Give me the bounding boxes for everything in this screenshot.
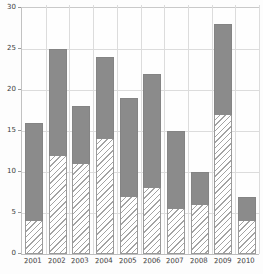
x-tick-label-2005: 2005 <box>116 257 140 267</box>
y-tick-label-10: 10 <box>0 167 16 175</box>
x-tick-label-2003: 2003 <box>68 257 92 267</box>
y-tick-mark-25 <box>18 48 21 49</box>
x-tick-label-2008: 2008 <box>187 257 211 267</box>
bar-2004-solid-segment <box>96 57 114 139</box>
bar-2003 <box>72 106 90 254</box>
x-tick-label-2002: 2002 <box>45 257 69 267</box>
y-tick-label-15: 15 <box>0 126 16 134</box>
bar-2007-hatched-segment <box>167 209 185 254</box>
y-tick-label-25: 25 <box>0 44 16 52</box>
bar-2009-hatched-segment <box>214 115 232 254</box>
bar-2008 <box>191 172 209 254</box>
y-tick-mark-5 <box>18 212 21 213</box>
v-gridline-8 <box>212 5 213 254</box>
bar-2002-solid-segment <box>49 49 67 156</box>
bar-2005-solid-segment <box>120 98 138 196</box>
bar-2001 <box>25 123 43 254</box>
x-tick-label-2006: 2006 <box>139 257 163 267</box>
stacked-bar-chart: 051015202530 200120022003200420052006200… <box>0 0 263 274</box>
plot-area <box>21 7 259 255</box>
v-gridline-5 <box>141 5 142 254</box>
bar-2005 <box>120 98 138 254</box>
bar-2004 <box>96 57 114 254</box>
y-tick-mark-30 <box>18 7 21 8</box>
v-gridline-3 <box>93 5 94 254</box>
y-tick-label-0: 0 <box>0 249 16 257</box>
v-gridline-4 <box>117 5 118 254</box>
bar-2001-hatched-segment <box>25 221 43 254</box>
bar-2004-hatched-segment <box>96 139 114 254</box>
y-tick-mark-0 <box>18 253 21 254</box>
x-tick-label-2009: 2009 <box>210 257 234 267</box>
bar-2002-hatched-segment <box>49 156 67 254</box>
x-tick-label-2004: 2004 <box>92 257 116 267</box>
bar-2009-solid-segment <box>214 24 232 114</box>
bar-2002 <box>49 49 67 254</box>
v-gridline-9 <box>235 5 236 254</box>
y-tick-mark-20 <box>18 89 21 90</box>
x-tick-label-2010: 2010 <box>234 257 258 267</box>
bar-2010-hatched-segment <box>238 221 256 254</box>
y-tick-mark-10 <box>18 171 21 172</box>
v-gridline-6 <box>164 5 165 254</box>
bar-2009 <box>214 24 232 254</box>
bar-2001-solid-segment <box>25 123 43 221</box>
bar-2010-solid-segment <box>238 197 256 222</box>
v-gridline-7 <box>188 5 189 254</box>
bar-2010 <box>238 197 256 254</box>
bar-2005-hatched-segment <box>120 197 138 254</box>
x-tick-label-2001: 2001 <box>21 257 45 267</box>
bar-2006-hatched-segment <box>143 188 161 254</box>
y-tick-label-30: 30 <box>0 3 16 11</box>
bar-2003-hatched-segment <box>72 164 90 254</box>
bar-2007-solid-segment <box>167 131 185 209</box>
v-gridline-2 <box>69 5 70 254</box>
y-tick-mark-15 <box>18 130 21 131</box>
v-gridline-10 <box>259 5 260 254</box>
x-tick-label-2007: 2007 <box>163 257 187 267</box>
bar-2008-solid-segment <box>191 172 209 205</box>
bar-2006 <box>143 74 161 254</box>
bar-2008-hatched-segment <box>191 205 209 254</box>
v-gridline-1 <box>46 5 47 254</box>
bar-2007 <box>167 131 185 254</box>
bar-2003-solid-segment <box>72 106 90 163</box>
y-tick-label-5: 5 <box>0 208 16 216</box>
y-tick-label-20: 20 <box>0 85 16 93</box>
bar-2006-solid-segment <box>143 74 161 189</box>
